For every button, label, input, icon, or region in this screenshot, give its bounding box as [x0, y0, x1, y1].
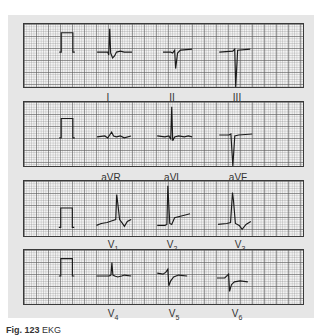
- trace-lead-aVL: [157, 107, 192, 141]
- lead-label-V4: V4: [108, 309, 119, 323]
- trace-lead-III: [219, 49, 250, 87]
- ecg-strip-precordial-2: [23, 249, 304, 305]
- ecg-strip-precordial-1: [23, 180, 304, 237]
- trace-lead-V3: [218, 193, 251, 230]
- caption-label: Fig. 123: [6, 325, 40, 335]
- ecg-strip-limb-leads: [23, 23, 304, 88]
- lead-label-V6: V6: [232, 309, 243, 323]
- ecg-strip-augmented-leads: [23, 101, 304, 167]
- ecg-trace-limb-leads: [24, 24, 303, 87]
- trace-lead-V5: [157, 269, 187, 285]
- trace-lead-I: [97, 29, 132, 58]
- trace-lead-V2: [157, 186, 190, 226]
- lead-label-V5: V5: [169, 309, 180, 323]
- caption-text: EKG: [42, 325, 61, 335]
- trace-lead-V6: [217, 274, 248, 291]
- calibration-pulse: [59, 208, 74, 227]
- trace-lead-V1: [96, 195, 131, 227]
- figure-caption: Fig. 123 EKG: [6, 325, 61, 335]
- trace-lead-II: [163, 49, 192, 68]
- calibration-pulse: [59, 118, 75, 137]
- calibration-pulse: [59, 33, 75, 52]
- trace-lead-aVF: [219, 134, 252, 166]
- trace-lead-V4: [96, 263, 131, 277]
- ecg-trace-precordial-2: [24, 250, 303, 304]
- calibration-pulse: [59, 259, 74, 276]
- trace-lead-aVR: [97, 132, 131, 138]
- ecg-trace-augmented-leads: [24, 102, 303, 166]
- ecg-trace-precordial-1: [24, 181, 303, 236]
